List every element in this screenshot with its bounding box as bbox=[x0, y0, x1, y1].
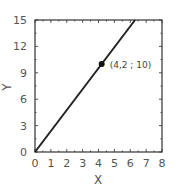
data-point-marker bbox=[99, 61, 105, 67]
x-tick-labels: 012345678 bbox=[32, 157, 166, 170]
y-tick-label: 0 bbox=[20, 146, 27, 159]
x-tick-label: 0 bbox=[32, 157, 39, 170]
x-tick-label: 1 bbox=[47, 157, 54, 170]
line-chart: (4,2 ; 10) 012345678 03691215 X Y bbox=[0, 0, 183, 192]
plot-frame bbox=[35, 20, 162, 152]
x-tick-label: 3 bbox=[79, 157, 86, 170]
y-tick-label: 12 bbox=[13, 40, 27, 53]
y-tick-label: 6 bbox=[20, 93, 27, 106]
y-tick-label: 9 bbox=[20, 67, 27, 80]
x-tick-label: 7 bbox=[143, 157, 150, 170]
axis-ticks bbox=[35, 20, 162, 152]
x-tick-label: 4 bbox=[95, 157, 102, 170]
y-tick-label: 3 bbox=[20, 120, 27, 133]
x-tick-label: 8 bbox=[159, 157, 166, 170]
y-axis-label: Y bbox=[0, 83, 14, 92]
x-tick-label: 2 bbox=[63, 157, 70, 170]
y-tick-label: 15 bbox=[13, 14, 27, 27]
x-axis-label: X bbox=[94, 173, 102, 187]
x-tick-label: 5 bbox=[111, 157, 118, 170]
x-tick-label: 6 bbox=[127, 157, 134, 170]
data-line bbox=[35, 20, 135, 152]
point-annotation: (4,2 ; 10) bbox=[110, 60, 152, 70]
y-tick-labels: 03691215 bbox=[13, 14, 27, 159]
